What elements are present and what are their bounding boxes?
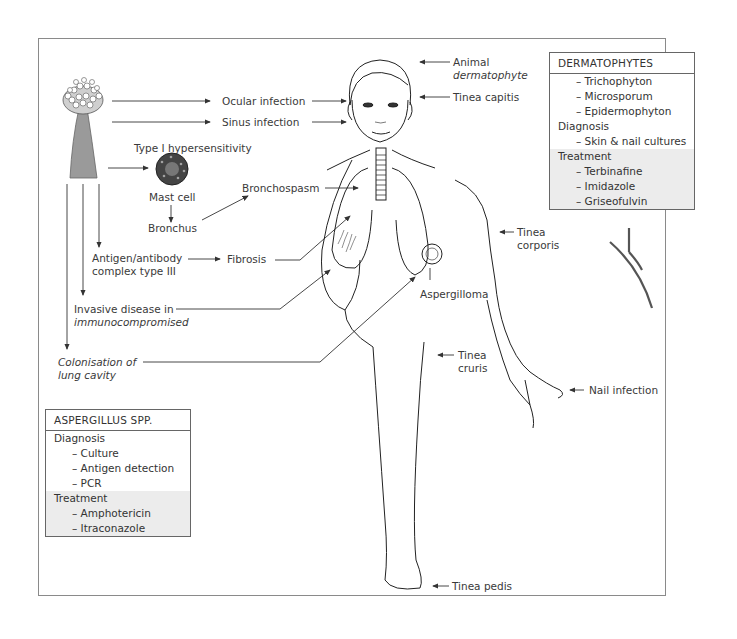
label-animal-dermatophyte: Animal dermatophyte [453,56,528,82]
diagnosis-item: – PCR [46,476,190,491]
species-item: – Trichophyton [550,74,694,89]
label-animal-line2: dermatophyte [453,69,528,82]
label-colonisation-line1: Colonisation of [58,356,136,369]
label-corporis-line1: Tinea [517,226,559,239]
treatment-heading: Treatment [46,491,190,506]
dermatophyte-hypha-icon [610,228,652,308]
human-body-outline-icon [321,60,562,589]
label-mast-cell: Mast cell [149,191,196,204]
treatment-item: – Terbinafine [550,164,694,179]
label-antigen-line1: Antigen/antibody [92,252,182,265]
label-animal-line1: Animal [453,56,528,69]
species-item: – Microsporum [550,89,694,104]
label-ocular-infection: Ocular infection [222,95,305,108]
label-antigen-line2: complex type III [92,265,182,278]
label-colonisation-line2: lung cavity [58,369,136,382]
aspergillus-box-title: ASPERGILLUS SPP. [46,410,190,431]
diagnosis-heading: Diagnosis [550,119,694,134]
label-cruris-line1: Tinea [458,349,487,362]
label-corporis-line2: corporis [517,239,559,252]
diagnosis-heading: Diagnosis [46,431,190,446]
treatment-item: – Griseofulvin [550,194,694,209]
treatment-item: – Imidazole [550,179,694,194]
dermatophytes-info-box: DERMATOPHYTES – Trichophyton – Microspor… [549,52,695,210]
label-invasive-line2: immunocompromised [74,316,189,329]
aspergillus-info-box: ASPERGILLUS SPP. Diagnosis – Culture – A… [45,409,191,537]
label-sinus-infection: Sinus infection [222,116,299,129]
label-tinea-capitis: Tinea capitis [453,91,519,104]
label-invasive-line1: Invasive disease in [74,303,189,316]
aspergillus-conidiophore-icon [63,78,103,179]
treatment-item: – Itraconazole [46,521,190,536]
diagnosis-item: – Antigen detection [46,461,190,476]
treatment-item: – Amphotericin [46,506,190,521]
treatment-section: Treatment – Terbinafine – Imidazole – Gr… [550,149,694,209]
treatment-section: Treatment – Amphotericin – Itraconazole [46,491,190,536]
diagnosis-item: – Skin & nail cultures [550,134,694,149]
treatment-heading: Treatment [550,149,694,164]
label-antigen-antibody: Antigen/antibody complex type III [92,252,182,278]
label-bronchospasm: Bronchospasm [242,182,320,195]
label-cruris-line2: cruris [458,362,487,375]
label-aspergilloma: Aspergilloma [420,288,488,301]
label-colonisation: Colonisation of lung cavity [58,356,136,382]
label-tinea-cruris: Tinea cruris [458,349,487,375]
diagnosis-item: – Culture [46,446,190,461]
dermatophytes-box-title: DERMATOPHYTES [550,53,694,74]
label-bronchus: Bronchus [148,222,197,235]
label-type-i-hypersensitivity: Type I hypersensitivity [134,142,252,155]
label-tinea-corporis: Tinea corporis [517,226,559,252]
mast-cell-icon [156,153,188,185]
label-invasive-disease: Invasive disease in immunocompromised [74,303,189,329]
label-nail-infection: Nail infection [589,384,658,397]
label-tinea-pedis: Tinea pedis [452,580,512,593]
species-item: – Epidermophyton [550,104,694,119]
label-fibrosis: Fibrosis [227,253,266,266]
